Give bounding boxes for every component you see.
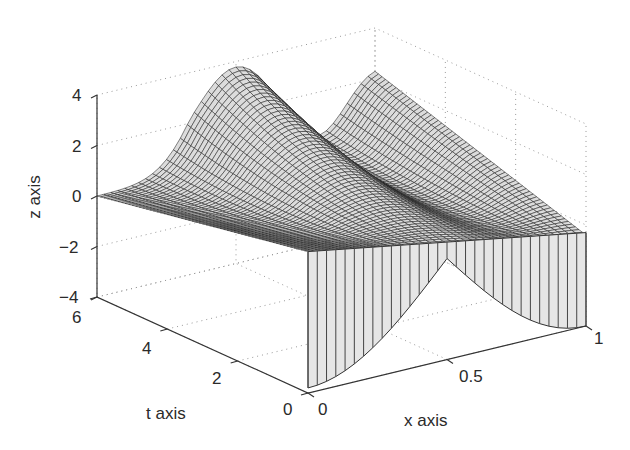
t-tick-4: 4 [142, 339, 151, 358]
z-tick-4: 4 [72, 86, 81, 105]
mesh-surface [97, 67, 586, 252]
z-axis-label: z axis [25, 175, 44, 218]
z-tick-neg4: −4 [59, 288, 78, 307]
t-tick-2: 2 [212, 369, 221, 388]
x-axis-label: x axis [404, 411, 447, 430]
t-tick-0: 0 [283, 400, 292, 419]
surface-plot: 4 2 0 −2 −4 6 4 2 0 0 0.5 1 z axis t axi… [0, 0, 630, 450]
t-tick-6: 6 [72, 308, 81, 327]
z-tick-0: 0 [72, 187, 81, 206]
chart-figure: 4 2 0 −2 −4 6 4 2 0 0 0.5 1 z axis t axi… [0, 0, 630, 450]
z-tick-2: 2 [72, 137, 81, 156]
z-tick-neg2: −2 [59, 238, 78, 257]
x-tick-1: 1 [594, 329, 603, 348]
t-axis-label: t axis [146, 404, 186, 423]
x-tick-0: 0 [318, 400, 327, 419]
x-tick-0-5: 0.5 [459, 367, 483, 386]
